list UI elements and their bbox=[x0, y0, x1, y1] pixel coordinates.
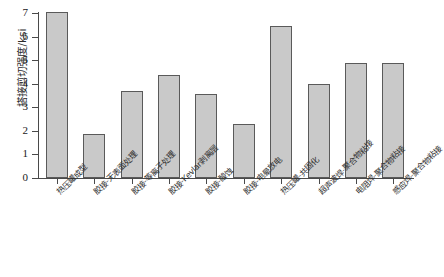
y-tick-label: 5 bbox=[10, 54, 28, 65]
y-tick-mark bbox=[32, 178, 38, 179]
y-tick-label: 4 bbox=[10, 78, 28, 89]
y-tick-label: 0 bbox=[10, 172, 28, 183]
y-tick-label: 1 bbox=[10, 148, 28, 159]
bar bbox=[233, 124, 255, 178]
y-tick-label: 7 bbox=[10, 7, 28, 18]
y-tick-label: 2 bbox=[10, 125, 28, 136]
y-tick-label: 3 bbox=[10, 101, 28, 112]
y-tick-label: 6 bbox=[10, 31, 28, 42]
bar bbox=[46, 12, 68, 178]
